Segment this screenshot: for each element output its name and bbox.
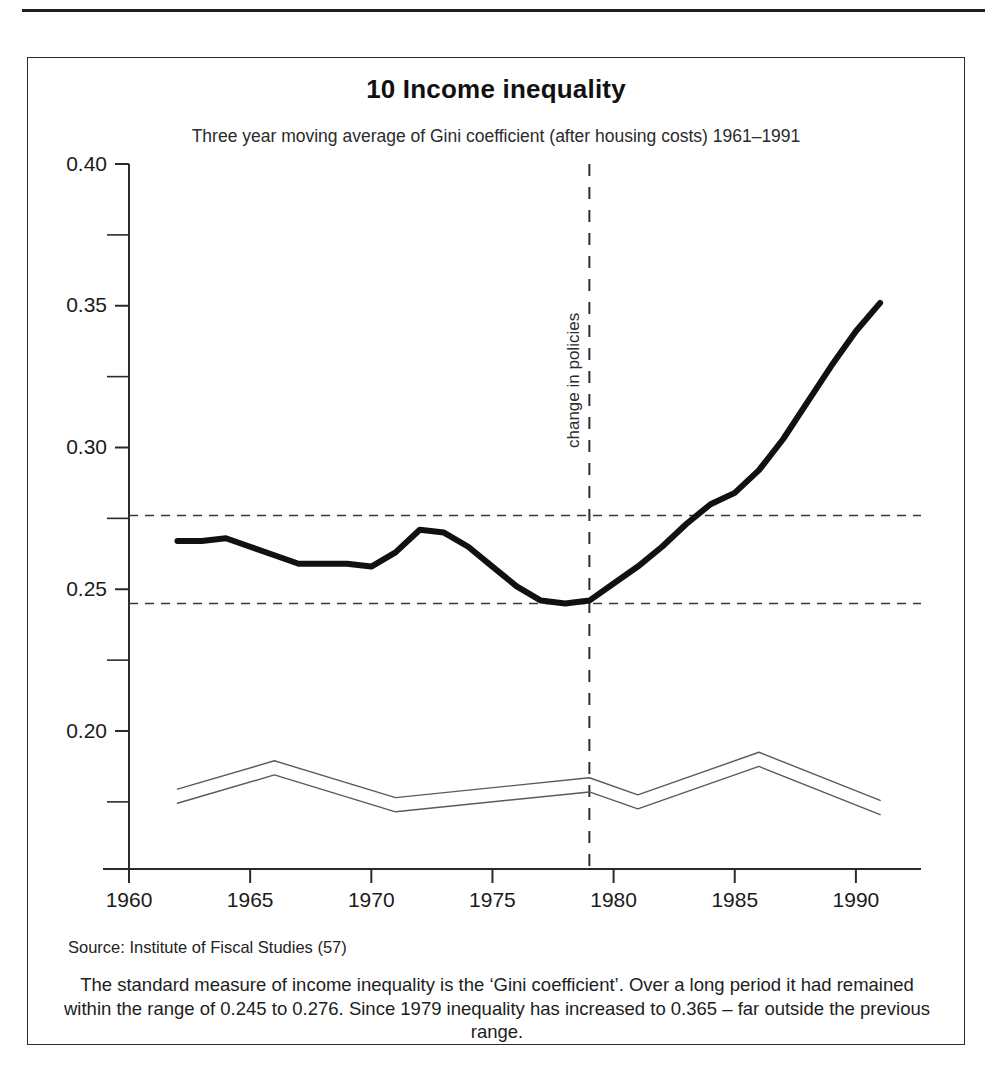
x-tick-label: 1980 xyxy=(590,888,637,911)
x-tick-label: 1985 xyxy=(711,888,758,911)
figure-page: 10 Income inequality Three year moving a… xyxy=(0,0,994,1081)
series-line-thin xyxy=(177,766,880,814)
chart-plot-area: 0.200.250.300.350.40 1960196519701975198… xyxy=(28,58,966,1046)
x-tick-label: 1975 xyxy=(469,888,516,911)
y-axis-ticks xyxy=(115,164,129,731)
policy-change-label: change in policies xyxy=(564,313,583,448)
page-top-rule xyxy=(22,9,985,12)
x-axis-tick-labels: 1960196519701975198019851990 xyxy=(106,888,880,911)
x-tick-label: 1965 xyxy=(227,888,274,911)
y-tick-label: 0.35 xyxy=(66,293,107,316)
series-line-thin xyxy=(177,752,880,800)
chart-axes xyxy=(103,164,921,869)
y-tick-label: 0.20 xyxy=(66,719,107,742)
x-tick-label: 1970 xyxy=(348,888,395,911)
figure-frame: 10 Income inequality Three year moving a… xyxy=(27,57,965,1045)
series-line-gini-ahc xyxy=(177,303,880,604)
chart-series-group xyxy=(177,303,880,815)
y-tick-label: 0.40 xyxy=(66,152,107,175)
x-tick-label: 1990 xyxy=(833,888,880,911)
y-axis-minor-ticks xyxy=(107,235,129,802)
source-note: Source: Institute of Fiscal Studies (57) xyxy=(68,938,347,957)
figure-caption: The standard measure of income inequalit… xyxy=(62,973,932,1044)
y-axis-tick-labels: 0.200.250.300.350.40 xyxy=(66,152,107,742)
line-chart-svg: 0.200.250.300.350.40 1960196519701975198… xyxy=(28,58,966,1046)
x-axis-ticks xyxy=(129,869,856,883)
y-tick-label: 0.30 xyxy=(66,435,107,458)
y-tick-label: 0.25 xyxy=(66,577,107,600)
x-tick-label: 1960 xyxy=(106,888,153,911)
